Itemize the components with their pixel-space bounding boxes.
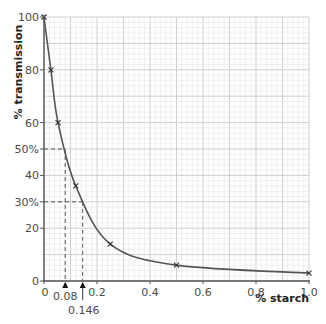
- x-tick-label: 0.4: [141, 286, 159, 299]
- y-tick-label: 50%: [15, 143, 39, 156]
- y-tick-label: 40: [25, 169, 39, 182]
- x-axis-title: % starch: [255, 292, 309, 305]
- reading-arrow-head-icon: [80, 282, 86, 288]
- x-tick-label: 0: [42, 286, 49, 299]
- y-tick-label: 60: [25, 117, 39, 130]
- reading-x-label: 0.146: [68, 304, 100, 317]
- y-axis-title: % transmission: [12, 25, 25, 120]
- reading-x-label: 0.08: [53, 290, 78, 303]
- y-tick-label: 30%: [15, 196, 39, 209]
- y-tick-label: 80: [25, 64, 39, 77]
- starch-calibration-chart: 02030%4050%6080100 00.20.40.60.81.0 0.08…: [0, 0, 326, 324]
- y-tick-label: 20: [25, 222, 39, 235]
- x-tick-label: 0.6: [194, 286, 212, 299]
- grid: [44, 17, 309, 281]
- x-tick-label: 0.2: [88, 286, 106, 299]
- reading-guides: [44, 149, 83, 281]
- y-tick-label: 0: [32, 275, 39, 288]
- reading-arrow-head-icon: [62, 282, 68, 288]
- y-tick-label: 100: [18, 11, 39, 24]
